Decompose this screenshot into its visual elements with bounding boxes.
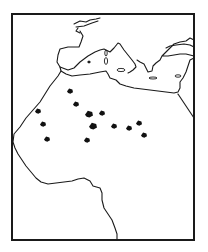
map <box>0 0 208 252</box>
site-markers <box>35 89 147 143</box>
northern-coastline <box>74 18 100 33</box>
map-canvas <box>0 0 208 252</box>
island-crete <box>149 77 157 79</box>
site-marker <box>35 109 41 114</box>
south-mediterranean-coastline <box>61 58 194 93</box>
island-balearic <box>88 61 91 63</box>
site-marker <box>84 138 90 143</box>
site-marker <box>136 121 142 126</box>
red-sea-coastline <box>178 94 194 118</box>
island-sicily <box>117 68 125 71</box>
site-marker <box>67 89 73 94</box>
site-marker <box>126 126 132 131</box>
site-marker <box>141 133 147 138</box>
island-cyprus <box>175 75 181 77</box>
site-marker <box>44 137 50 142</box>
atlantic-coastline <box>13 31 117 240</box>
island-corsica <box>105 50 107 56</box>
island-sardinia <box>104 58 107 65</box>
site-marker <box>111 124 117 129</box>
site-marker <box>99 111 105 116</box>
site-marker <box>89 123 97 130</box>
site-marker <box>40 122 46 127</box>
site-marker <box>73 102 79 107</box>
site-marker <box>85 111 93 118</box>
